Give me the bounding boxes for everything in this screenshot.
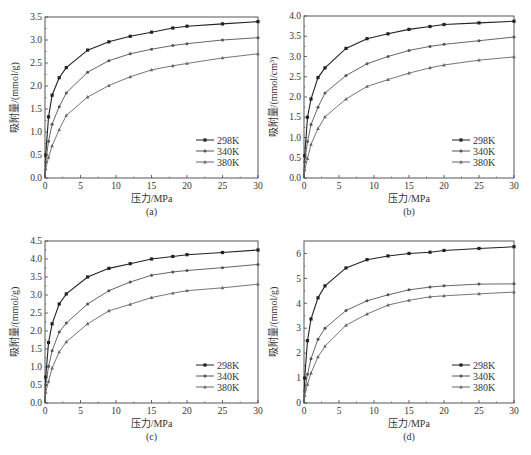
subplot-label: (b) — [403, 206, 415, 218]
298K-marker — [221, 22, 224, 25]
340K-marker — [429, 286, 432, 289]
340K-marker — [478, 283, 481, 286]
y-tick-label: 1.0 — [30, 127, 42, 137]
x-tick-label: 30 — [253, 181, 263, 191]
x-tick-label: 20 — [439, 406, 449, 416]
298K-marker — [309, 97, 312, 100]
380K-marker — [50, 366, 54, 369]
340K-marker — [221, 39, 224, 42]
340K-marker — [408, 288, 411, 291]
298K-marker — [129, 35, 132, 38]
340K-marker — [65, 322, 68, 325]
298K-marker — [107, 267, 110, 270]
340K-marker — [186, 42, 189, 45]
340K-marker — [47, 140, 50, 143]
x-axis-label: 压力/MPa — [131, 192, 173, 204]
298K-marker — [51, 94, 54, 97]
y-tick-label: 1.5 — [30, 344, 42, 354]
298K-marker — [150, 31, 153, 34]
340K-marker — [129, 281, 132, 284]
340K-marker — [324, 327, 327, 330]
x-tick-label: 0 — [43, 406, 48, 416]
legend-340K-marker — [204, 375, 207, 378]
298K-marker — [256, 20, 259, 23]
legend-label-340K: 340K — [473, 146, 496, 157]
340K-marker — [345, 74, 348, 77]
340K-marker — [366, 299, 369, 302]
y-tick-label: 2.0 — [30, 326, 42, 336]
298K-marker — [316, 76, 319, 79]
298K-marker — [323, 284, 326, 287]
340K-marker — [345, 309, 348, 312]
340K-marker — [58, 105, 61, 108]
legend: 298K340K380K — [196, 135, 240, 168]
340K-marker — [86, 71, 89, 74]
298K-marker — [86, 275, 89, 278]
298K-marker — [171, 255, 174, 258]
298K-marker — [65, 292, 68, 295]
298K-marker — [386, 32, 389, 35]
x-tick-label: 5 — [337, 406, 342, 416]
340K-marker — [150, 274, 153, 277]
legend-298K-marker — [459, 363, 462, 366]
chart-b-svg: 0510152025300.00.51.01.52.02.53.03.54.0压… — [265, 0, 531, 225]
298K-marker — [185, 253, 188, 256]
subplot-d: 0510152025300123456压力/MPa吸附量/(mmol/g)(d)… — [265, 225, 531, 450]
y-tick-label: 4.5 — [30, 236, 42, 246]
y-tick-label: 3.0 — [289, 52, 301, 62]
y-tick-label: 0.5 — [289, 153, 301, 163]
chart-c-svg: 0510152025300.00.51.01.52.02.53.03.54.04… — [0, 225, 265, 450]
298K-marker — [344, 47, 347, 50]
chart-d-svg: 0510152025300123456压力/MPa吸附量/(mmol/g)(d)… — [265, 225, 531, 450]
340K-marker — [107, 59, 110, 62]
y-tick-label: 3.5 — [289, 31, 301, 41]
340K-marker — [257, 263, 260, 266]
x-tick-label: 15 — [404, 406, 414, 416]
legend-label-298K: 298K — [473, 135, 496, 146]
subplot-label: (a) — [146, 206, 157, 218]
y-axis-label: 吸附量/(mmol/g) — [8, 287, 21, 358]
x-tick-label: 25 — [218, 406, 228, 416]
380K-marker — [50, 144, 54, 147]
298K-marker — [365, 258, 368, 261]
298K-marker — [185, 25, 188, 28]
legend: 298K340K380K — [452, 135, 496, 168]
340K-marker — [303, 160, 306, 163]
340K-marker — [366, 62, 369, 65]
340K-marker — [429, 45, 432, 48]
380K-marker — [44, 167, 48, 170]
298K-marker — [428, 25, 431, 28]
340K-marker — [317, 338, 320, 341]
legend-label-380K: 380K — [217, 382, 240, 393]
298K-marker — [47, 115, 50, 118]
y-tick-label: 0.5 — [30, 380, 42, 390]
y-axis-label: 吸附量/(mmol/g) — [267, 287, 280, 358]
380K-marker — [57, 128, 61, 131]
y-tick-label: 3.5 — [30, 272, 42, 282]
340K-marker — [513, 36, 516, 39]
y-tick-label: 3.0 — [30, 290, 42, 300]
x-tick-label: 5 — [78, 406, 83, 416]
y-tick-label: 1.5 — [289, 112, 301, 122]
298K-marker — [171, 26, 174, 29]
chart-a-svg: 0510152025300.00.51.01.52.02.53.03.5压力/M… — [0, 0, 265, 225]
380K-marker — [309, 371, 313, 374]
y-tick-label: 3 — [296, 323, 301, 333]
340K-marker — [150, 48, 153, 51]
340K-marker — [387, 293, 390, 296]
340K-marker — [443, 284, 446, 287]
y-tick-label: 0.5 — [30, 150, 42, 160]
298K-marker — [442, 249, 445, 252]
298K-marker — [306, 116, 309, 119]
340K-marker — [513, 282, 516, 285]
x-tick-label: 5 — [78, 181, 83, 191]
340K-marker — [478, 39, 481, 42]
298K-marker — [365, 37, 368, 40]
y-tick-label: 2.5 — [30, 58, 42, 68]
340K-marker — [306, 373, 309, 376]
340K-marker — [408, 49, 411, 52]
y-tick-label: 4.0 — [30, 254, 42, 264]
380K-marker — [303, 168, 307, 171]
340K-marker — [129, 52, 132, 55]
x-axis-label: 压力/MPa — [388, 417, 430, 429]
